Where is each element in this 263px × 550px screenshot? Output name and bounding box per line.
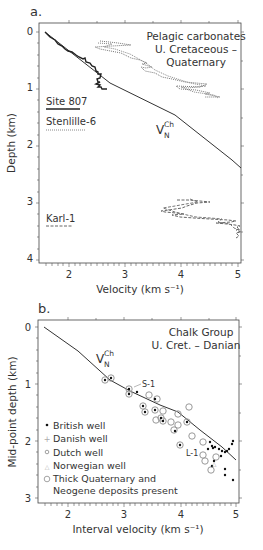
x-ticks-a: [46, 263, 238, 267]
danish-well-icon: +: [44, 435, 51, 444]
chart-b-title: Chalk Group U. Cret. – Danian: [152, 326, 241, 351]
x-tick-labels-b: 2 3 4 5: [65, 509, 239, 520]
figure: a. 0 1 2 3 4 2 3 4: [0, 0, 263, 550]
y-axis-label-b: Mid-point depth (km): [6, 357, 18, 468]
svg-text:4: 4: [178, 269, 184, 280]
norwegian-well-icon: △: [45, 463, 50, 470]
svg-text:4: 4: [178, 509, 184, 520]
legend-danish: Danish well: [53, 433, 108, 444]
legend-norwegian: Norwegian well: [53, 460, 126, 471]
x-axis-label-a: Velocity (km s⁻¹): [96, 283, 184, 295]
svg-text:Ch: Ch: [164, 120, 174, 129]
karl-1-curve-b: [163, 199, 240, 230]
legend-dutch: Dutch well: [53, 447, 103, 458]
legend-site-807: Site 807: [46, 96, 87, 107]
svg-text:0: 0: [25, 322, 31, 333]
panel-label-b: b.: [38, 301, 50, 316]
y-tick-labels-b: 0 1 2 3: [25, 322, 31, 504]
legend-thick-quaternary: Thick Quaternary and: [52, 473, 156, 484]
svg-text:U. Cret. – Danian: U. Cret. – Danian: [152, 339, 241, 351]
chart-b: b. 0 1 2 3 2 3 4 5 Interval velocity (km…: [6, 301, 242, 535]
chart-a: a. 0 1 2 3 4 2 3 4: [5, 4, 246, 295]
svg-text:5: 5: [233, 509, 239, 520]
svg-text:3: 3: [122, 269, 128, 280]
dutch-well-icon: [45, 450, 49, 454]
legend-karl-1: Karl-1: [46, 213, 75, 224]
svg-text:2: 2: [65, 509, 71, 520]
svg-text:N: N: [164, 131, 170, 140]
legend-neogene: Neogene deposits present: [53, 485, 178, 496]
norwegian-marker: △: [212, 460, 217, 467]
legend-a: Site 807 Stenlille-6 Karl-1: [46, 96, 96, 226]
svg-text:3: 3: [27, 196, 33, 207]
annotation-l1: L-1: [186, 449, 198, 458]
svg-text:Ch: Ch: [104, 349, 114, 358]
svg-text:U. Cretaceous –: U. Cretaceous –: [155, 43, 237, 55]
british-well-icon: [46, 424, 49, 427]
svg-text:2: 2: [25, 436, 31, 447]
vn-label-a: V Ch N: [156, 120, 174, 140]
svg-text:N: N: [104, 360, 110, 369]
panel-label-a: a.: [30, 4, 42, 19]
annotation-s1: S-1: [142, 380, 155, 389]
thick-quaternary-markers: [102, 375, 219, 473]
svg-text:1: 1: [25, 379, 31, 390]
svg-text:5: 5: [235, 269, 241, 280]
svg-text:2: 2: [66, 269, 72, 280]
svg-text:0: 0: [27, 26, 33, 37]
y-axis-label-a: Depth (km): [5, 113, 17, 173]
svg-text:2: 2: [27, 139, 33, 150]
svg-text:3: 3: [25, 493, 31, 504]
legend-british: British well: [53, 420, 105, 431]
annotation-s1-leader: [134, 384, 141, 387]
legend-b: British well + Danish well Dutch well △ …: [44, 420, 178, 496]
x-tick-labels-a: 2 3 4 5: [66, 269, 241, 280]
legend-stenlille-6: Stenlille-6: [46, 116, 96, 127]
karl-1-curve: [161, 200, 241, 238]
site-807-curve: [45, 32, 107, 89]
svg-text:4: 4: [27, 253, 33, 264]
chart-a-title: Pelagic carbonates U. Cretaceous – Quate…: [146, 30, 245, 68]
svg-text:3: 3: [121, 509, 127, 520]
svg-text:Pelagic carbonates: Pelagic carbonates: [146, 30, 245, 42]
svg-text:Quaternary: Quaternary: [166, 56, 226, 68]
x-axis-label-b: Interval velocity (km s⁻¹): [73, 523, 204, 535]
thick-quaternary-icon: [44, 476, 50, 482]
y-tick-labels-a: 0 1 2 3 4: [27, 26, 33, 264]
vn-label-b: V Ch N: [96, 349, 114, 369]
svg-text:1: 1: [27, 82, 33, 93]
svg-text:Chalk Group: Chalk Group: [169, 326, 234, 338]
